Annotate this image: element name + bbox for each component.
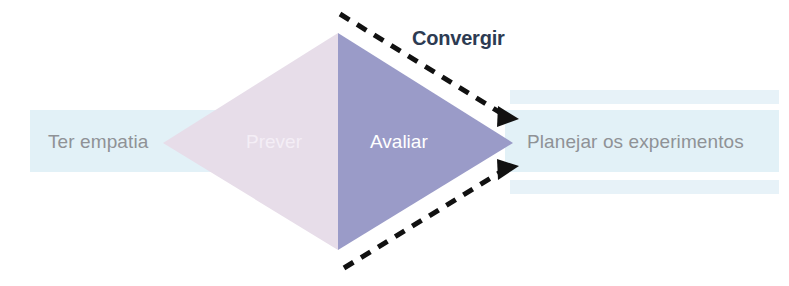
right-band-bottom-thin	[510, 180, 779, 194]
label-convergir: Convergir	[412, 27, 505, 50]
label-planejar-os-experimentos: Planejar os experimentos	[527, 131, 744, 153]
label-prever: Prever	[246, 131, 302, 153]
label-avaliar: Avaliar	[370, 131, 428, 153]
label-ter-empatia: Ter empatia	[48, 131, 148, 153]
right-band-top-thin	[510, 90, 779, 104]
diagram-canvas: Ter empatia Prever Avaliar Planejar os e…	[0, 0, 789, 286]
